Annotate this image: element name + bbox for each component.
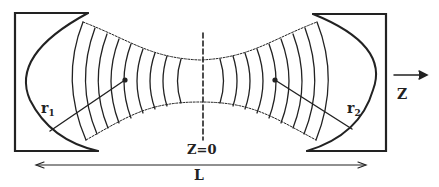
left-mirror (26, 13, 98, 151)
right-mirror (307, 14, 376, 151)
z-arrow-head (419, 71, 427, 79)
waist-label: Z=0 (187, 143, 216, 156)
curvature-center-r2 (272, 77, 277, 82)
curvature-center-r1 (122, 77, 127, 82)
optical-cavity-diagram: r1 r2 Z Z=0 L (0, 0, 439, 187)
r2-label: r2 (347, 101, 361, 115)
z-axis-label: Z (397, 87, 407, 101)
r1-label: r1 (41, 101, 55, 115)
diagram-canvas (0, 0, 439, 187)
length-label: L (194, 168, 204, 182)
